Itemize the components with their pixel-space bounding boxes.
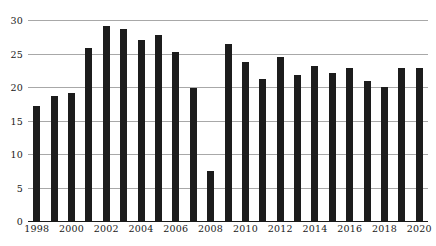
bar [190,88,197,221]
y-axis-tick-label: 20 [11,82,24,93]
y-axis-tick-label: 10 [11,149,24,160]
y-axis-tick-label: 30 [11,15,24,26]
bar [294,75,301,221]
y-axis-tick-label: 15 [11,115,24,126]
bars-layer [28,20,428,221]
bar [103,26,110,221]
x-axis-tick-label: 2008 [198,223,223,234]
y-axis-tick-label: 25 [11,48,24,59]
bar-chart: 051015202530 199820002002200420062008201… [0,0,436,246]
x-axis-tick-label: 2002 [94,223,119,234]
bar [277,57,284,221]
x-axis-tick-label: 2006 [163,223,188,234]
bar [259,79,266,221]
bar [398,68,405,221]
bar [85,48,92,221]
y-axis-tick-label: 0 [17,216,23,227]
x-axis-labels: 1998200020022004200620082010201220142016… [28,223,428,243]
bar [416,68,423,221]
y-axis-tick-label: 5 [17,182,23,193]
x-axis-tick-label: 2012 [268,223,293,234]
bar [155,35,162,221]
bar [138,40,145,221]
plot-area: 051015202530 [28,20,428,221]
bar [242,62,249,221]
bar [311,66,318,221]
x-axis-baseline [28,221,428,222]
bar [33,106,40,221]
x-axis-tick-label: 2014 [302,223,327,234]
x-axis-tick-label: 2016 [337,223,362,234]
bar [381,87,388,221]
bar [225,44,232,221]
bar [68,93,75,221]
bar [346,68,353,221]
x-axis-tick-label: 1998 [24,223,49,234]
x-axis-tick-label: 2000 [59,223,84,234]
bar [120,29,127,221]
bar [207,171,214,221]
x-axis-tick-label: 2010 [233,223,258,234]
x-axis-tick-label: 2020 [407,223,432,234]
x-axis-tick-label: 2018 [372,223,397,234]
bar [364,81,371,221]
bar [329,73,336,221]
x-axis-tick-label: 2004 [129,223,154,234]
bar [51,96,58,221]
bar [172,52,179,222]
